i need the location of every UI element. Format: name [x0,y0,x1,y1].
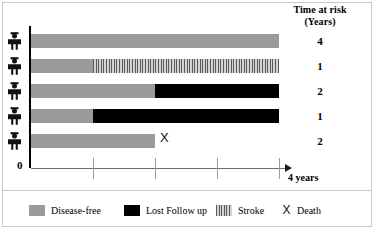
person-icon [6,132,23,150]
segment-lost-follow-up [155,84,279,98]
time-at-risk-value: 1 [274,109,366,123]
legend-item-disease-free: Disease-free [29,203,101,217]
subject-timeline-bar [31,134,279,148]
segment-disease-free [31,59,93,73]
legend-swatch-lost-follow-up [124,205,140,216]
death-marker-icon: X [160,131,169,145]
segment-disease-free [31,84,155,98]
legend-item-death: XDeath [280,203,321,217]
axis-origin-label: 0 [17,159,23,171]
segment-disease-free [31,34,279,48]
segment-disease-free [31,134,155,148]
subject-row: 1 [0,55,374,77]
segment-stroke [93,59,279,73]
legend-item-lost-follow-up: Lost Follow up [124,203,207,217]
x-axis-label: 4 years [288,172,318,183]
subject-row: 1 [0,105,374,127]
legend-item-stroke: Stroke [216,203,264,217]
person-icon [6,107,23,125]
time-at-risk-header-line1: Time at risk [274,4,366,15]
survival-timeline-figure: Time at risk (Years) 0 4121X2 4 years Di… [0,0,374,229]
x-axis-tick [217,158,218,179]
x-axis-tick [93,158,94,179]
time-at-risk-value: 2 [274,84,366,98]
subject-timeline-bar [31,109,279,123]
x-axis-line [31,168,286,169]
x-axis-arrow-icon [285,164,292,172]
subject-row: X2 [0,130,374,152]
legend-label-stroke: Stroke [238,205,264,216]
segment-lost-follow-up [93,109,279,123]
legend-label-disease-free: Disease-free [51,205,101,216]
subject-row: 2 [0,80,374,102]
x-axis-tick [155,158,156,179]
legend-swatch-disease-free [29,205,45,216]
subject-row: 4 [0,30,374,52]
subject-timeline-bar [31,59,279,73]
legend: Disease-freeLost Follow upStrokeXDeath [3,190,371,226]
subject-timeline-bar [31,34,279,48]
person-icon [6,32,23,50]
subject-timeline-bar [31,84,279,98]
legend-label-lost-follow-up: Lost Follow up [146,205,207,216]
legend-swatch-stroke [216,205,232,216]
person-icon [6,57,23,75]
time-at-risk-header-line2: (Years) [274,16,366,27]
x-axis-tick [279,158,280,179]
time-at-risk-value: 4 [274,34,366,48]
person-icon [6,82,23,100]
legend-swatch-death-x-icon: X [280,203,293,217]
segment-disease-free [31,109,93,123]
time-at-risk-value: 1 [274,59,366,73]
legend-label-death: Death [297,205,321,216]
time-at-risk-value: 2 [274,134,366,148]
